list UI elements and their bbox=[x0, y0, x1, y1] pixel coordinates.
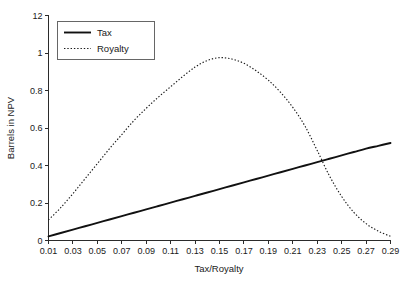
y-tick-label: 0 bbox=[37, 236, 42, 246]
y-tick-label: 12 bbox=[32, 11, 42, 21]
x-tick-label: 0.29 bbox=[382, 246, 400, 256]
x-axis-title: Tax/Royalty bbox=[194, 263, 243, 274]
x-tick-label: 0.09 bbox=[137, 246, 155, 256]
y-tick-label: 1 bbox=[37, 48, 42, 58]
x-tick-label: 0.07 bbox=[113, 246, 131, 256]
x-tick-label: 0.01 bbox=[40, 246, 58, 256]
y-tick-label: 0.8 bbox=[30, 86, 43, 96]
x-tick-label: 0.23 bbox=[308, 246, 326, 256]
x-tick-label: 0.11 bbox=[162, 246, 179, 256]
x-tick-label: 0.13 bbox=[186, 246, 204, 256]
x-tick-label: 0.03 bbox=[64, 246, 82, 256]
x-tick-label: 0.15 bbox=[211, 246, 229, 256]
x-tick-label: 0.27 bbox=[357, 246, 375, 256]
y-tick-label: 0.4 bbox=[30, 161, 43, 171]
legend-label-tax: Tax bbox=[97, 27, 112, 38]
y-tick-label: 0.6 bbox=[30, 123, 43, 133]
y-axis-title: Barrels in NPV bbox=[5, 96, 16, 159]
x-tick-label: 0.25 bbox=[333, 246, 351, 256]
y-tick-label: 0.2 bbox=[30, 198, 43, 208]
x-tick-label: 0.05 bbox=[89, 246, 107, 256]
legend-label-royalty: Royalty bbox=[97, 43, 129, 54]
x-tick-label: 0.19 bbox=[260, 246, 278, 256]
x-tick-label: 0.17 bbox=[235, 246, 253, 256]
chart-legend: Tax Royalty bbox=[58, 22, 155, 60]
x-tick-label: 0.21 bbox=[284, 246, 302, 256]
chart-figure: 00.20.40.60.8112 0.010.030.050.070.090.1… bbox=[0, 0, 408, 283]
